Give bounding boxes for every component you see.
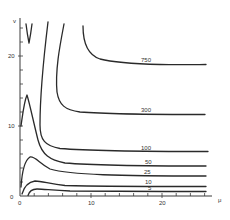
label-750: 750	[141, 57, 152, 63]
curve-v-shape	[26, 24, 32, 43]
x-tick-label-0: 0	[18, 200, 22, 206]
curve-5	[28, 189, 206, 196]
y-tick-label-0: 0	[10, 194, 14, 200]
curve-100	[40, 22, 208, 152]
y-tick-label-10: 10	[8, 123, 15, 129]
label-300: 300	[141, 107, 152, 113]
label-25: 25	[144, 169, 151, 175]
x-axis-label: μ	[218, 197, 222, 203]
label-50: 50	[145, 159, 152, 165]
curve-50	[21, 95, 206, 166]
y-tick-label-20: 20	[8, 53, 15, 59]
x-tick-label-10: 10	[88, 200, 95, 206]
x-tick-label-20: 20	[159, 200, 166, 206]
y-axis-label: v	[13, 18, 16, 24]
curve-labels: 750 300 100 50 25 10 5	[141, 57, 152, 191]
curves	[21, 22, 208, 196]
curve-300	[57, 24, 205, 115]
label-100: 100	[141, 145, 152, 151]
contour-chart: 0 10 20 0 10 20 μ v 750 300 100 50 25 10…	[0, 0, 230, 220]
